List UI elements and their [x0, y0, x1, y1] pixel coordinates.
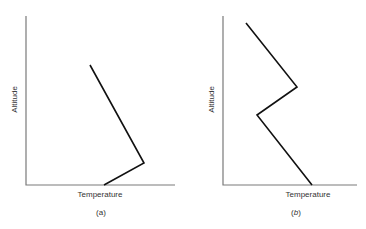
panel-b: Altitude Temperature (b) [0, 0, 366, 229]
chart-b-temperature-profile [246, 23, 312, 185]
chart-b-y-axis-label: Altitude [207, 75, 216, 125]
chart-b-axes [223, 16, 357, 185]
caption-close-paren: ) [298, 208, 301, 217]
chart-b-caption: (b) [281, 208, 311, 217]
chart-b-x-axis-label: Temperature [258, 190, 358, 199]
